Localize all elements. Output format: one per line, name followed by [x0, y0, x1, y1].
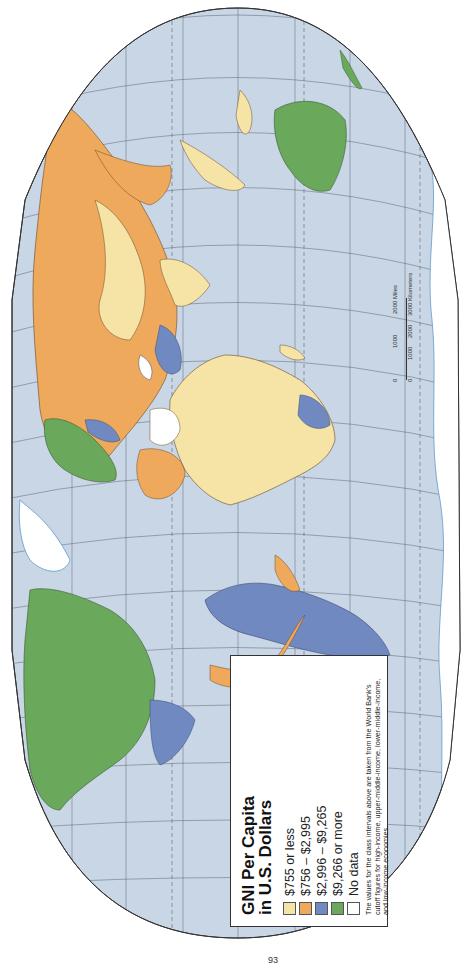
legend-label: $756 – $2,995 [299, 816, 313, 896]
page-number: 93 [268, 955, 278, 964]
scale-miles: 0 1000 2000 Miles [392, 262, 406, 382]
legend-item: No data [346, 667, 361, 915]
scale-tick: 2000 Miles [392, 285, 398, 314]
legend-item: $756 – $2,995 [298, 667, 313, 915]
scale-tick: 1000 [392, 335, 398, 348]
scale-tick: 0 [407, 379, 413, 382]
legend-item: $755 or less [282, 667, 297, 915]
scale-tick: 3000 Kilometers [407, 273, 413, 316]
legend-box: GNI Per Capita in U.S. Dollars $755 or l… [230, 655, 388, 927]
legend-title-line2: in U.S. Dollars [257, 667, 274, 915]
legend-swatch [283, 902, 296, 915]
scale-km: 0 1000 2000 3000 Kilometers [407, 262, 421, 382]
legend-content: GNI Per Capita in U.S. Dollars $755 or l… [232, 657, 386, 925]
legend-label: No data [347, 852, 361, 896]
legend-label: $755 or less [283, 828, 297, 896]
scale-bar: 0 1000 2000 Miles 0 1000 2000 3000 Kilom… [392, 262, 426, 382]
scale-tick: 0 [392, 379, 398, 382]
scale-tick: 2000 [407, 325, 413, 338]
legend-item: $2,996 – $9,265 [314, 667, 329, 915]
legend-label: $2,996 – $9,265 [315, 806, 329, 896]
legend-note: The values for the class intervals above… [365, 667, 391, 915]
legend-title-line1: GNI Per Capita [240, 667, 257, 915]
legend-item: $9,266 or more [330, 667, 345, 915]
legend-swatch [315, 902, 328, 915]
legend-title: GNI Per Capita in U.S. Dollars [240, 667, 274, 915]
legend-swatch [347, 902, 360, 915]
legend-label: $9,266 or more [331, 811, 345, 896]
scale-tick: 1000 [407, 347, 413, 360]
legend-swatch [331, 902, 344, 915]
legend-swatch [299, 902, 312, 915]
